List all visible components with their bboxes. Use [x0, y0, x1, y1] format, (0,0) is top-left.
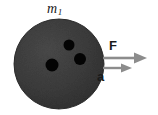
free-body-diagram: m1 F a [0, 0, 158, 115]
force-vector-arrow [103, 53, 147, 64]
mass-subscript: 1 [58, 7, 63, 17]
mass-label: m1 [47, 2, 62, 16]
acceleration-vector-arrow [103, 64, 132, 73]
acceleration-vector-label: a [97, 70, 104, 83]
force-vector-label: F [109, 39, 117, 52]
diagram-canvas [0, 0, 158, 115]
finger-hole-left [46, 59, 59, 72]
ball-shape [14, 19, 104, 109]
mass-symbol: m [47, 1, 57, 16]
finger-hole-right [74, 53, 86, 65]
finger-hole-top [64, 40, 75, 51]
